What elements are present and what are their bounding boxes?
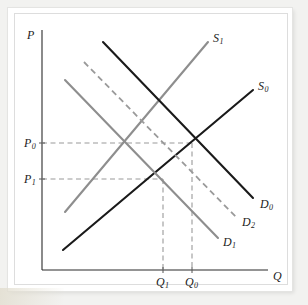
curve-d2 (84, 62, 236, 217)
figure-root: P Q P0 P1 Q1 Q0 S1 S0 D0 D2 D1 (0, 0, 308, 305)
curve-label-d0-sub: 0 (269, 203, 273, 212)
tick-label-p0: P0 (24, 137, 36, 151)
supply-demand-chart (0, 0, 308, 305)
curve-s0 (63, 90, 253, 250)
curve-label-d2-base: D (242, 215, 251, 229)
curve-label-d2: D2 (242, 216, 255, 230)
curve-label-d0-base: D (260, 197, 269, 211)
tick-label-q0-base: Q (185, 275, 194, 289)
curve-label-d1-sub: 1 (232, 241, 236, 250)
tick-label-q0-sub: 0 (194, 281, 198, 290)
tick-label-q1-base: Q (156, 275, 165, 289)
tick-label-p1: P1 (24, 173, 36, 187)
curve-label-s1: S1 (213, 32, 223, 46)
curve-label-s0-sub: 0 (264, 85, 268, 94)
curve-label-d0: D0 (260, 198, 273, 212)
x-axis-label: Q (273, 270, 282, 282)
y-axis-label-text: P (27, 28, 34, 42)
curve-label-d2-sub: 2 (251, 221, 255, 230)
tick-label-q1: Q1 (156, 276, 169, 290)
y-axis-label: P (27, 29, 34, 41)
tick-label-p0-sub: 0 (31, 142, 35, 151)
tick-label-q0: Q0 (185, 276, 198, 290)
curve-d1 (65, 80, 218, 238)
x-axis-label-text: Q (273, 269, 282, 283)
curve-label-s0: S0 (258, 80, 268, 94)
curve-d0 (103, 42, 253, 198)
tick-label-q1-sub: 1 (165, 281, 169, 290)
curve-s1 (65, 42, 208, 212)
curve-label-d1: D1 (223, 236, 236, 250)
scan-artifact (0, 288, 64, 305)
tick-label-p1-sub: 1 (31, 178, 35, 187)
curve-label-s1-sub: 1 (219, 37, 223, 46)
curve-label-d1-base: D (223, 235, 232, 249)
